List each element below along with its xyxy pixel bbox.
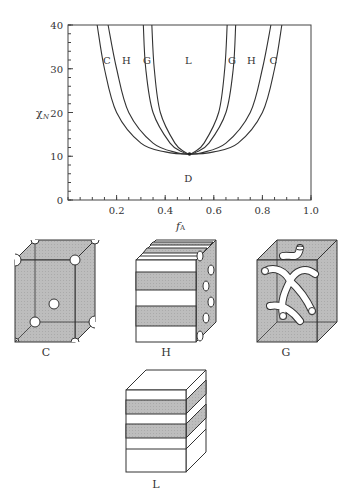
cube-lamellae-icon — [126, 370, 206, 472]
region-label: C — [103, 55, 111, 66]
x-tick-label: 1.0 — [303, 205, 319, 216]
x-tick-label: 0.6 — [206, 205, 222, 216]
caption-gyroid: G — [271, 346, 301, 359]
caption-cylinders: H — [151, 346, 181, 359]
caption-lamellae: L — [141, 478, 171, 491]
x-tick-label: 0.4 — [157, 205, 173, 216]
phase-boundary — [97, 25, 282, 154]
cube-spheres-icon — [15, 240, 99, 342]
x-tick-label: 0.2 — [109, 205, 125, 216]
y-axis-label: χ — [36, 107, 43, 120]
y-tick-label: 40 — [50, 20, 63, 31]
cube-cylinders-icon — [136, 240, 216, 342]
region-label: G — [143, 55, 151, 66]
x-tick-label: 0.8 — [254, 205, 270, 216]
region-label: L — [185, 55, 192, 66]
y-tick-label: 20 — [50, 108, 63, 119]
region-label: H — [122, 55, 131, 66]
region-label: H — [247, 55, 256, 66]
svg-text:N: N — [42, 113, 50, 121]
y-tick-label: 30 — [50, 64, 63, 75]
critical-point — [188, 152, 192, 156]
phase-boundary — [143, 25, 235, 154]
region-label: G — [228, 55, 236, 66]
region-label: C — [270, 55, 278, 66]
cube-gyroid-icon — [257, 240, 337, 342]
caption-spheres: C — [31, 346, 61, 359]
y-tick-label: 10 — [50, 151, 63, 162]
y-tick-label: 0 — [57, 195, 63, 206]
phase-diagram: 0102030400.20.40.60.81.0χNCHGLGHCD — [0, 0, 353, 230]
region-label: D — [184, 173, 192, 184]
phase-boundary — [152, 25, 227, 154]
